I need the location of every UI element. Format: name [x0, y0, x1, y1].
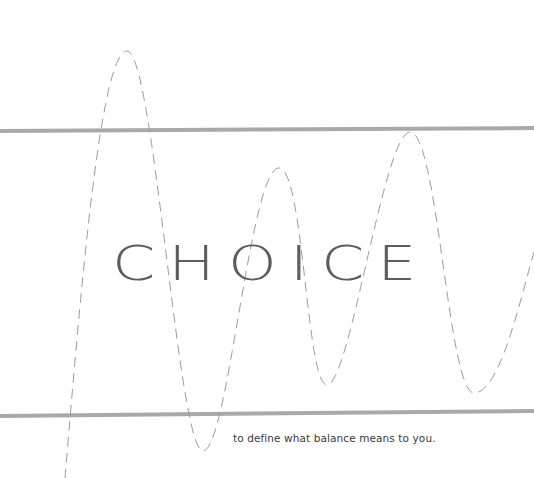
choice-title: CHOICE [112, 236, 452, 291]
top-band-line [0, 128, 534, 131]
subtitle-text: to define what balance means to you. [233, 432, 436, 444]
artwork-canvas: CHOICE to define what balance means to y… [0, 0, 534, 478]
bottom-band-line [0, 411, 534, 416]
